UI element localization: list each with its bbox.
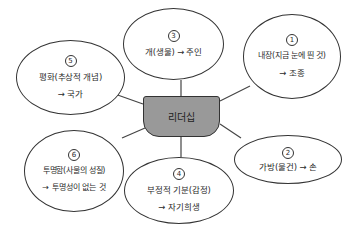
connector-1 bbox=[220, 86, 250, 101]
connector-2 bbox=[220, 124, 241, 138]
number-badge: 1 bbox=[286, 34, 298, 46]
node-text: 투명함(사물의 성질) bbox=[43, 165, 106, 177]
number-badge: 3 bbox=[168, 30, 180, 42]
center-label: 리더십 bbox=[168, 109, 195, 124]
node-3-dog: 3 개(생물) → 주인 bbox=[123, 8, 224, 80]
node-5-peace: 5 평화(추상적 개념) → 국가 bbox=[16, 40, 125, 115]
node-text: 평화(추상적 개념) bbox=[39, 71, 102, 83]
node-text-result: → 자기희생 bbox=[158, 201, 200, 213]
node-text-result: → 조종 bbox=[279, 67, 305, 79]
node-1-internal: 1 내장(지금 눈에 띈 것) → 조종 bbox=[243, 14, 341, 99]
node-text: 가방(물건) → 손 bbox=[259, 161, 316, 173]
number-badge: 4 bbox=[173, 168, 185, 180]
node-4-negative-feeling: 4 부정적 기분(감정) → 자기희생 bbox=[124, 157, 234, 224]
connector-6 bbox=[122, 128, 145, 138]
node-2-bag: 2 가방(물건) → 손 bbox=[234, 135, 342, 184]
number-badge: 5 bbox=[65, 55, 77, 67]
center-node-leadership: 리더십 bbox=[143, 96, 220, 137]
number-badge: 2 bbox=[282, 147, 294, 159]
node-text: 내장(지금 눈에 띈 것) bbox=[258, 50, 325, 62]
node-6-transparency: 6 투명함(사물의 성질) → 투명성이 없는 것 bbox=[24, 130, 124, 212]
node-text-result: → 국가 bbox=[58, 88, 84, 100]
number-badge: 6 bbox=[68, 149, 80, 161]
node-text: 부정적 기분(감정) bbox=[147, 184, 210, 196]
node-text-result: → 투명성이 없는 것 bbox=[42, 182, 105, 194]
node-text: 개(생물) → 주인 bbox=[145, 46, 202, 58]
